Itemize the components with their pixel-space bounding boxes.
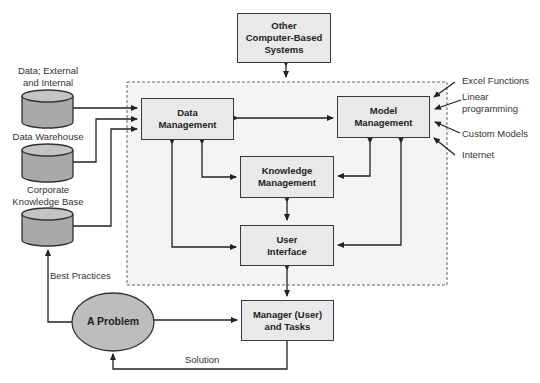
model-management-node: Model Management <box>337 96 430 138</box>
node-label: Computer-Based <box>246 32 323 43</box>
label-line: Excel Functions <box>462 75 529 86</box>
label-line: programming <box>462 103 518 114</box>
label-line: Internet <box>462 149 494 160</box>
user-interface-node: User Interface <box>240 225 334 266</box>
label-line: Linear <box>462 91 488 102</box>
model-input-excel: Excel Functions <box>462 75 529 87</box>
node-label: Management <box>258 177 316 188</box>
node-label: Systems <box>264 44 303 55</box>
source-label-external: Data; External and Internal <box>8 65 88 89</box>
node-label: Data <box>177 107 198 118</box>
database-icon-knowledge-base <box>22 208 73 246</box>
model-input-custom: Custom Models <box>462 128 528 140</box>
node-label: Manager (User) <box>253 309 322 320</box>
edge-label-solution: Solution <box>185 354 219 366</box>
node-label: Management <box>354 117 412 128</box>
model-input-internet: Internet <box>462 149 494 161</box>
manager-tasks-node: Manager (User) and Tasks <box>241 300 334 341</box>
problem-label: A Problem <box>73 315 153 327</box>
label-line: and Internal <box>23 77 73 88</box>
other-systems-node: Other Computer-Based Systems <box>237 13 331 63</box>
data-management-node: Data Management <box>141 98 234 140</box>
label-line: Data; External <box>18 65 78 76</box>
label-line: Data Warehouse <box>13 131 84 142</box>
source-label-warehouse: Data Warehouse <box>8 131 88 143</box>
label-line: Knowledge Base <box>12 196 83 207</box>
database-icon-external <box>22 90 73 128</box>
source-label-knowledge-base: Corporate Knowledge Base <box>8 184 88 208</box>
node-label: Other <box>271 20 296 31</box>
node-label: and Tasks <box>265 321 311 332</box>
node-label: Model <box>370 105 397 116</box>
node-label: Interface <box>267 246 307 257</box>
model-input-linear: Linear programming <box>462 91 518 115</box>
label-line: Custom Models <box>462 128 528 139</box>
label-line: Corporate <box>27 184 69 195</box>
database-icon-warehouse <box>22 144 73 182</box>
knowledge-management-node: Knowledge Management <box>240 156 334 198</box>
arrow-best-practices <box>48 250 72 322</box>
edge-label-best-practices: Best Practices <box>50 270 111 282</box>
node-label: Management <box>158 119 216 130</box>
node-label: Knowledge <box>262 165 313 176</box>
node-label: User <box>276 234 297 245</box>
